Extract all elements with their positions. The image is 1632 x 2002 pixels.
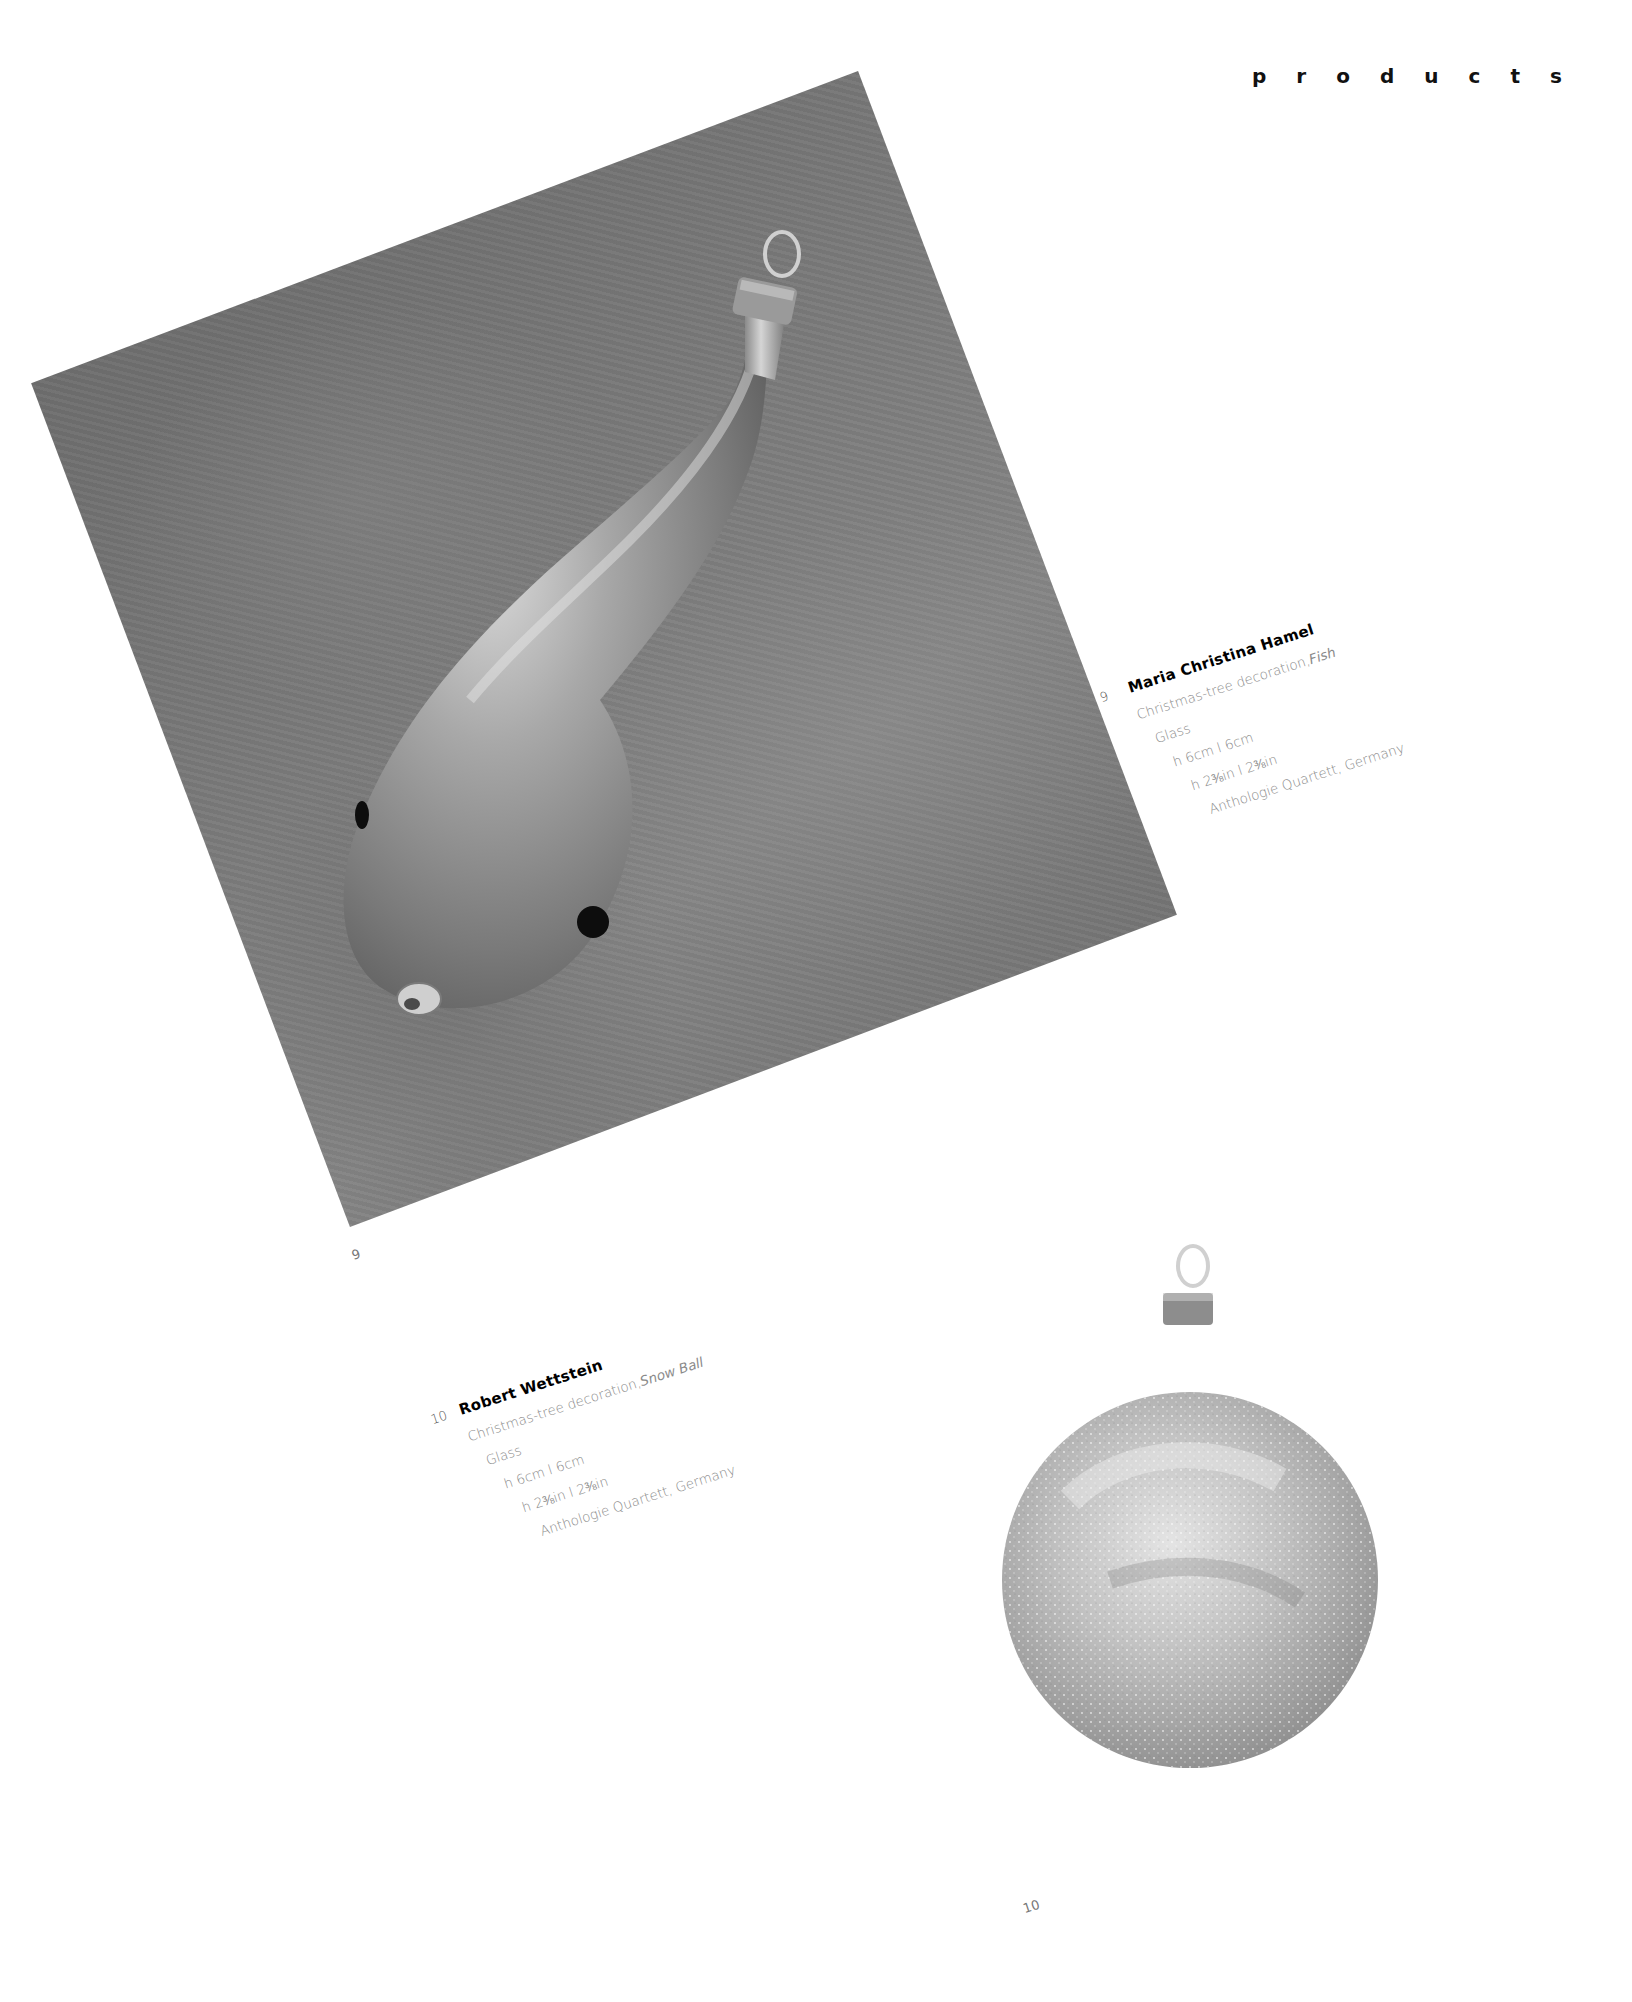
section-header-letter: t — [1510, 64, 1520, 88]
section-header-letter: s — [1550, 64, 1562, 88]
section-header-letter: o — [1336, 64, 1350, 88]
product-photo-snow-ball — [805, 1116, 1561, 1883]
section-header: p r o d u c t s — [1252, 64, 1562, 88]
section-header-letter: p — [1252, 64, 1266, 88]
section-header-letter: u — [1424, 64, 1438, 88]
section-header-letter: c — [1469, 64, 1481, 88]
photo-label-9: 9 — [350, 1246, 363, 1263]
product-caption-9: 9 Maria Christina Hamel Christmas-tree d… — [1096, 600, 1408, 844]
section-header-letter: d — [1380, 64, 1394, 88]
product-caption-10: 10 Robert Wettstein Christmas-tree decor… — [427, 1321, 742, 1566]
photo-label-10: 10 — [1021, 1897, 1041, 1916]
section-header-letter: r — [1296, 64, 1306, 88]
product-photo-fish — [31, 71, 1177, 1227]
